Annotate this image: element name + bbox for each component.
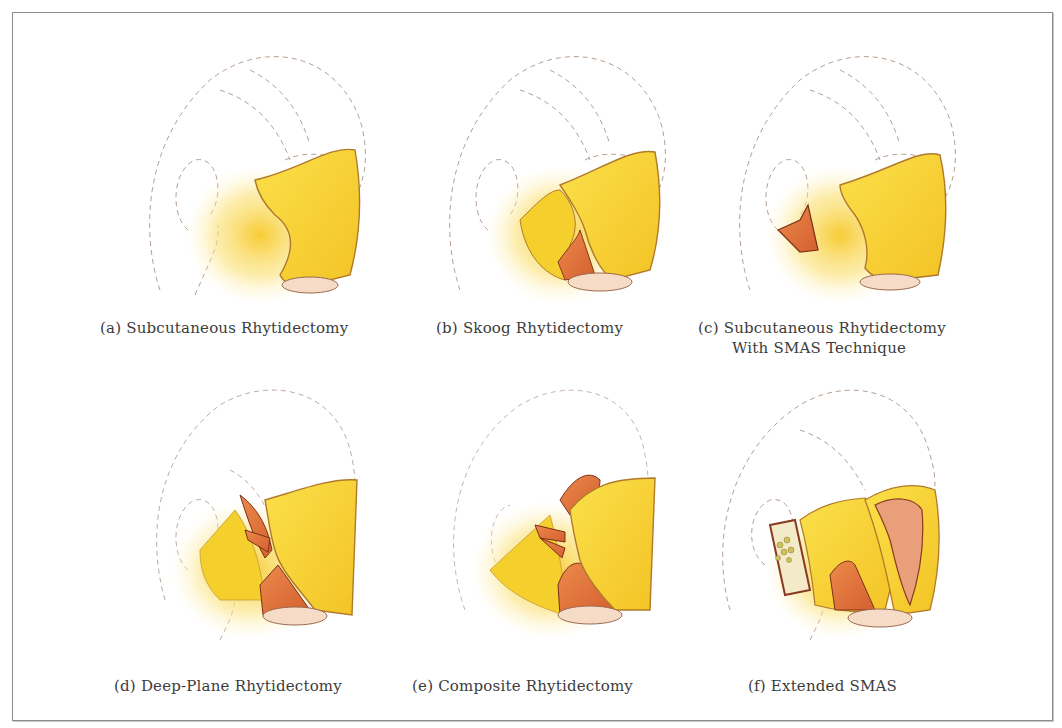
- caption-label: (f): [748, 677, 766, 695]
- subcutaneous-rhytidectomy-illustration: [100, 30, 400, 320]
- caption-label: (d): [114, 677, 136, 695]
- caption-title-line2: With SMAS Technique: [698, 338, 998, 358]
- caption-title: Subcutaneous Rhytidectomy: [126, 319, 348, 337]
- caption-title: Skoog Rhytidectomy: [463, 319, 623, 337]
- extended-smas-illustration: [690, 370, 990, 670]
- caption-e: (e) Composite Rhytidectomy: [412, 676, 712, 696]
- composite-rhytidectomy-illustration: [400, 370, 700, 670]
- caption-c: (c) Subcutaneous Rhytidectomy With SMAS …: [698, 318, 998, 358]
- caption-d: (d) Deep-Plane Rhytidectomy: [114, 676, 414, 696]
- panel-e: (e) Composite Rhytidectomy: [400, 370, 700, 700]
- caption-label: (a): [100, 319, 121, 337]
- skoog-rhytidectomy-illustration: [400, 30, 700, 320]
- caption-label: (c): [698, 319, 719, 337]
- caption-a: (a) Subcutaneous Rhytidectomy: [100, 318, 400, 338]
- caption-label: (e): [412, 677, 433, 695]
- panel-f: (f) Extended SMAS: [690, 370, 990, 700]
- panel-c: (c) Subcutaneous Rhytidectomy With SMAS …: [690, 30, 990, 375]
- caption-label: (b): [436, 319, 458, 337]
- caption-title: Deep-Plane Rhytidectomy: [141, 677, 342, 695]
- panel-d: (d) Deep-Plane Rhytidectomy: [100, 370, 400, 700]
- caption-title: Extended SMAS: [771, 677, 897, 695]
- caption-title: Subcutaneous Rhytidectomy: [724, 319, 946, 337]
- deep-plane-rhytidectomy-illustration: [100, 370, 400, 670]
- caption-title: Composite Rhytidectomy: [438, 677, 633, 695]
- panel-b: (b) Skoog Rhytidectomy: [400, 30, 700, 350]
- subcutaneous-rhytidectomy-smas-illustration: [690, 30, 990, 320]
- panel-a: (a) Subcutaneous Rhytidectomy: [100, 30, 400, 350]
- caption-f: (f) Extended SMAS: [748, 676, 1048, 696]
